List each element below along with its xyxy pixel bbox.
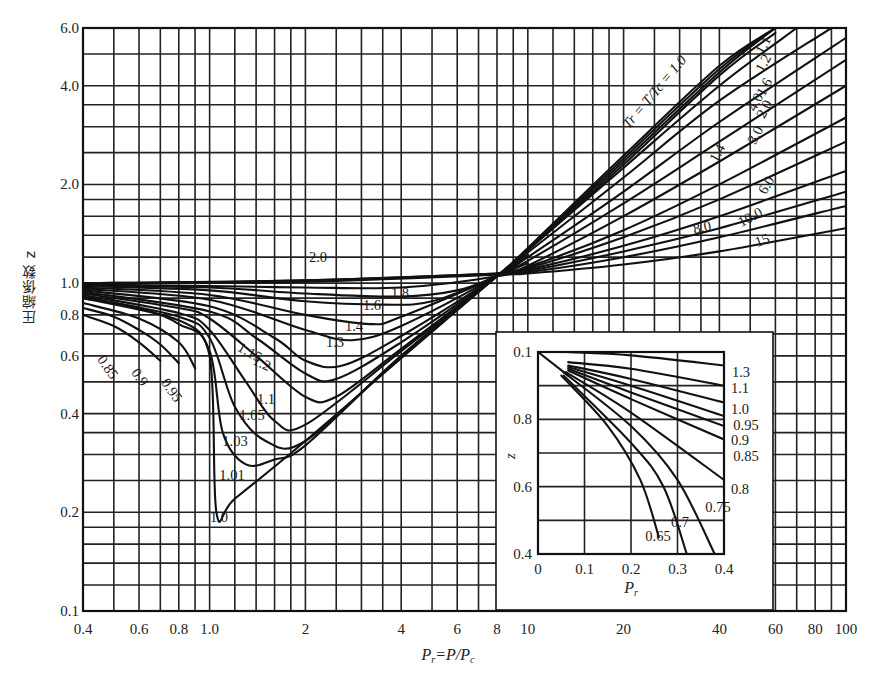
curve-tr-3_0 xyxy=(497,118,846,274)
compressibility-chart: 0.40.60.81.0246810204060801000.10.20.40.… xyxy=(0,0,880,682)
curve-label-upper-1_2: 1.2 xyxy=(752,51,775,75)
curve-tr-1_6 xyxy=(83,60,846,305)
inset-x-tick: 0.4 xyxy=(715,561,734,577)
curve-label-1_03: 1.03 xyxy=(222,433,247,449)
curve-label-8_0: 8.0 xyxy=(691,217,712,236)
inset-curve-label-0_75: 0.75 xyxy=(705,499,730,515)
x-tick-label: 80 xyxy=(808,621,823,637)
y-tick-label: 0.1 xyxy=(60,603,79,619)
inset-x-tick: 0.2 xyxy=(622,561,641,577)
curve-label-2_0: 2.0 xyxy=(309,249,327,265)
inset-curve-label-1_1: 1.1 xyxy=(731,380,749,396)
y-tick-label: 0.6 xyxy=(60,348,79,364)
y-tick-label: 0.2 xyxy=(60,504,79,520)
inset-chart: 00.10.20.30.40.40.60.80.11.31.11.00.950.… xyxy=(496,332,773,610)
inset-curve-label-1_3: 1.3 xyxy=(732,364,750,380)
axis-titles: Pr=P/Pc xyxy=(421,646,475,665)
inset-y-title: z xyxy=(502,453,518,460)
curve-tr-10_0 xyxy=(83,206,846,283)
curve-label-1_0: 1.0 xyxy=(210,509,228,525)
inset-curve-label-0_95: 0.95 xyxy=(733,417,758,433)
inset-y-tick: 0.8 xyxy=(513,411,532,427)
inset-x-tick: 0.1 xyxy=(575,561,594,577)
curve-label-15: 15 xyxy=(752,230,771,250)
inset-y-tick: 0.4 xyxy=(513,546,532,562)
y-tick-label: 0.4 xyxy=(60,406,79,422)
y-tick-label: 2.0 xyxy=(60,176,79,192)
inset-y-tick: 0.1 xyxy=(513,344,532,360)
curve-label-1_8: 1.8 xyxy=(391,285,409,301)
y-tick-label: 4.0 xyxy=(60,78,79,94)
x-tick-label: 0.6 xyxy=(130,621,149,637)
y-tick-label: 0.8 xyxy=(60,307,79,323)
inset-x-tick: 0 xyxy=(534,561,542,577)
inset-curve-label-1_0: 1.0 xyxy=(731,401,749,417)
x-tick-label: 0.4 xyxy=(74,621,93,637)
x-tick-label: 20 xyxy=(616,621,631,637)
curve-label-upper-1_4: 1.4 xyxy=(706,141,729,165)
x-tick-label: 40 xyxy=(712,621,727,637)
curve-label-1_01: 1.01 xyxy=(219,467,244,483)
curve-label-1_6: 1.6 xyxy=(363,297,381,313)
curve-label-0_9: 0.9 xyxy=(128,365,152,389)
x-tick-label: 100 xyxy=(835,621,858,637)
inset-curve-label-0_65: 0.65 xyxy=(645,528,670,544)
inset-y-tick: 0.6 xyxy=(513,479,532,495)
inset-curve-label-0_8: 0.8 xyxy=(731,481,749,497)
inset-x-tick: 0.3 xyxy=(668,561,687,577)
curve-label-1_4: 1.4 xyxy=(345,318,364,334)
curve-label-1_05: 1.05 xyxy=(239,407,264,423)
x-tick-label: 8 xyxy=(493,621,501,637)
inset-curve-label-0_85: 0.85 xyxy=(733,448,758,464)
x-tick-label: 1.0 xyxy=(200,621,219,637)
y-axis-title: 圧縮係数 z xyxy=(20,250,40,324)
x-tick-label: 10 xyxy=(520,621,535,637)
curve-label-1_3: 1.3 xyxy=(326,334,344,350)
inset-curve-label-0_9: 0.9 xyxy=(731,432,749,448)
inset-curve-label-0_7: 0.7 xyxy=(671,514,689,530)
curve-label-0_95: 0.95 xyxy=(158,375,186,405)
x-tick-label: 4 xyxy=(397,621,405,637)
x-axis-title: Pr=P/Pc xyxy=(421,646,475,665)
curve-label-6_0: 6.0 xyxy=(755,173,778,197)
curve-tr-8_0 xyxy=(83,192,846,283)
y-tick-label: 6.0 xyxy=(60,20,79,36)
curve-label-1_1: 1.1 xyxy=(257,391,275,407)
x-tick-label: 60 xyxy=(768,621,783,637)
x-tick-label: 2 xyxy=(302,621,310,637)
x-tick-label: 6 xyxy=(453,621,461,637)
y-tick-label: 1.0 xyxy=(60,275,79,291)
x-tick-label: 0.8 xyxy=(169,621,188,637)
